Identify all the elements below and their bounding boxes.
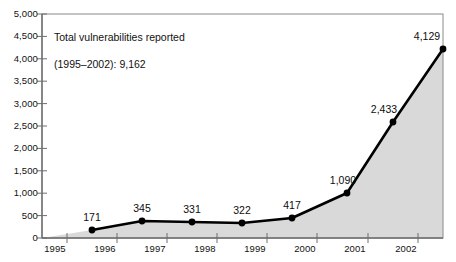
- value-label-2002: 4,129: [397, 31, 456, 42]
- vulnerabilities-area-chart: Total vulnerabilities reported (1995–200…: [0, 0, 456, 262]
- x-tick-2002: 2002: [381, 243, 431, 254]
- x-tick-1997: 1997: [130, 243, 180, 254]
- x-tick-1995: 1995: [30, 243, 80, 254]
- x-tick-1999: 1999: [230, 243, 280, 254]
- value-label-2000: 1,090: [313, 175, 373, 186]
- x-tick-2001: 2001: [330, 243, 380, 254]
- value-label-2001: 2,433: [354, 104, 414, 115]
- x-tick-1996: 1996: [80, 243, 130, 254]
- x-tick-1998: 1998: [180, 243, 230, 254]
- value-label-1999: 417: [262, 200, 322, 211]
- x-tick-2000: 2000: [280, 243, 330, 254]
